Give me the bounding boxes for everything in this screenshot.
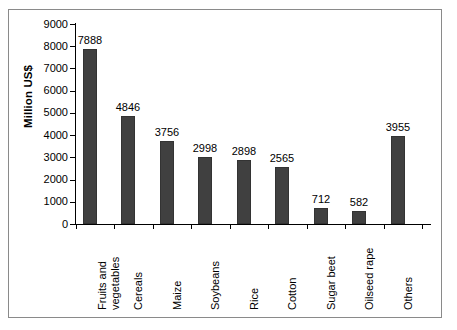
x-axis-line	[75, 224, 431, 225]
x-axis-category-label: Others	[402, 232, 415, 310]
y-axis-tick-label: 4000	[44, 130, 68, 141]
x-axis-category-label: Cereals	[132, 232, 145, 310]
bar-value-label: 4846	[103, 102, 153, 113]
x-axis-category-label-line: vegetables	[109, 232, 122, 310]
bar	[314, 208, 328, 224]
x-axis-category-label-line: Sugar beet	[325, 232, 338, 310]
x-axis-category-label: Cotton	[286, 232, 299, 310]
bar	[160, 141, 174, 224]
x-axis-tick	[114, 224, 115, 229]
y-axis-tick-label: 3000	[44, 152, 68, 163]
y-axis-tick-label: 9000	[44, 19, 68, 30]
y-axis-tick	[70, 24, 75, 25]
y-axis-tick-label: 0	[62, 219, 68, 230]
bar-value-label: 3955	[373, 122, 423, 133]
x-axis-category-label-line: Maize	[171, 232, 184, 310]
x-axis-tick	[191, 224, 192, 229]
x-axis-tick	[307, 224, 308, 229]
x-axis-tick	[230, 224, 231, 229]
y-axis-tick	[70, 224, 75, 225]
x-axis-category-label-line: Oilseed rape	[363, 232, 376, 310]
x-axis-category-label: Maize	[171, 232, 184, 310]
y-axis-tick-label: 2000	[44, 174, 68, 185]
y-axis-tick-label: 1000	[44, 196, 68, 207]
y-axis-tick	[70, 135, 75, 136]
bar	[237, 160, 251, 224]
bar	[83, 49, 97, 224]
y-axis-tick	[70, 202, 75, 203]
x-axis-category-label: Rice	[248, 232, 261, 310]
y-axis-tick	[70, 91, 75, 92]
bar	[352, 211, 366, 224]
x-axis-tick	[153, 224, 154, 229]
y-axis-tick-label: 5000	[44, 107, 68, 118]
x-axis-tick	[268, 224, 269, 229]
bar-value-label: 3756	[142, 127, 192, 138]
x-axis-category-label: Sugar beet	[325, 232, 338, 310]
y-axis-tick	[70, 113, 75, 114]
x-axis-category-label: Soybeans	[209, 232, 222, 310]
y-axis-tick	[70, 157, 75, 158]
bar-value-label: 2565	[257, 153, 307, 164]
bar	[275, 167, 289, 224]
x-axis-category-label-line: Fruits and	[96, 232, 109, 310]
x-axis-category-label-line: Cotton	[286, 232, 299, 310]
x-axis-category-label: Fruits andvegetables	[96, 232, 121, 310]
x-axis-tick	[76, 224, 77, 229]
bar	[391, 136, 405, 224]
x-axis-tick	[345, 224, 346, 229]
bar-value-label: 7888	[65, 35, 115, 46]
x-axis-category-label-line: Cereals	[132, 232, 145, 310]
x-axis-category-label-line: Soybeans	[209, 232, 222, 310]
y-axis-tick	[70, 46, 75, 47]
bar-chart: Million US$ 9000800070006000500040003000…	[0, 0, 457, 330]
y-axis-tick	[70, 68, 75, 69]
bar	[198, 157, 212, 224]
y-axis-title: Million US$	[22, 18, 38, 128]
x-axis-tick	[384, 224, 385, 229]
x-axis-category-label-line: Others	[402, 232, 415, 310]
x-axis-category-label-line: Rice	[248, 232, 261, 310]
y-axis-tick-label: 7000	[44, 63, 68, 74]
y-axis-line	[75, 23, 76, 225]
x-axis-tick	[422, 224, 423, 229]
bar	[121, 116, 135, 224]
y-axis-tick-label: 6000	[44, 85, 68, 96]
x-axis-category-label: Oilseed rape	[363, 232, 376, 310]
y-axis-tick	[70, 180, 75, 181]
bar-value-label: 582	[334, 197, 384, 208]
